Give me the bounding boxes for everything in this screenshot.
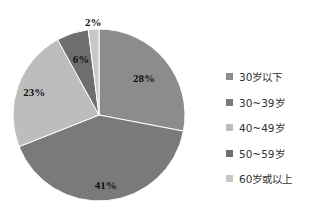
slice-percent-label: 2% [85, 16, 102, 28]
legend-item: 60岁或以上 [226, 166, 292, 192]
legend-item: 30岁以下 [226, 64, 292, 90]
legend-swatch [226, 73, 233, 80]
slice-percent-label: 41% [95, 179, 117, 191]
slice-percent-label: 28% [133, 72, 155, 84]
legend-swatch [226, 175, 233, 182]
legend: 30岁以下 30~39岁 40~49岁 50~59岁 60岁或以上 [226, 64, 292, 192]
legend-item: 30~39岁 [226, 90, 292, 116]
legend-item: 40~49岁 [226, 115, 292, 141]
legend-item: 50~59岁 [226, 141, 292, 167]
legend-swatch [226, 99, 233, 106]
slice-percent-label: 23% [23, 86, 45, 98]
legend-swatch [226, 150, 233, 157]
legend-swatch [226, 124, 233, 131]
slice-percent-label: 6% [73, 53, 90, 65]
